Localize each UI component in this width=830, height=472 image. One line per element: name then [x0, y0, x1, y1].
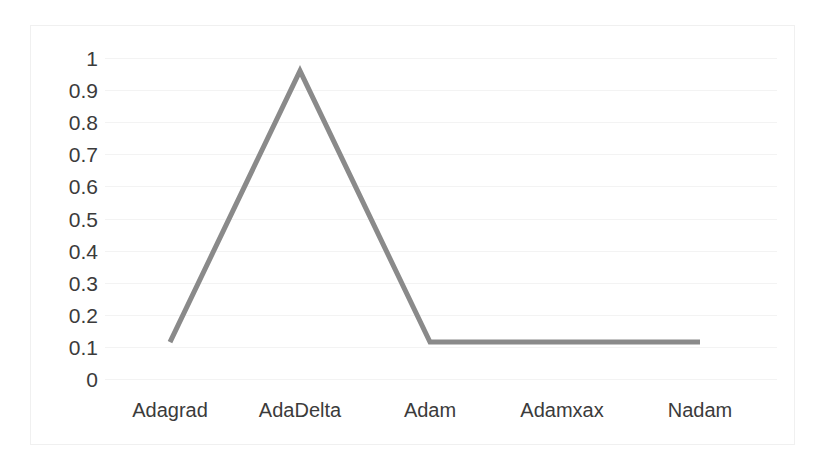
x-tick-label-nadam: Nadam: [668, 396, 732, 424]
x-axis: Adagrad AdaDelta Adam Adamxax Nadam: [0, 396, 830, 428]
line-chart-figure: 1 0.9 0.8 0.7 0.6 0.5 0.4 0.3 0.2 0.1 0 …: [0, 0, 830, 472]
series-line-path: [170, 71, 700, 342]
x-tick-label-adagrad: Adagrad: [132, 396, 208, 424]
x-tick-label-adamxax: Adamxax: [520, 396, 603, 424]
x-tick-label-adam: Adam: [404, 396, 456, 424]
x-tick-label-adadelta: AdaDelta: [259, 396, 341, 424]
